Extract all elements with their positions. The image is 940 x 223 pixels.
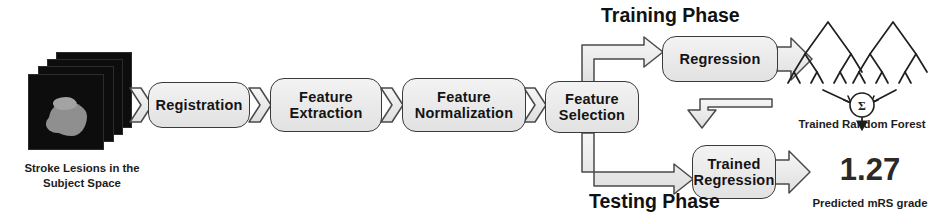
box-regression-line1: Regression <box>680 51 761 67</box>
box-feature-selection[interactable]: Feature Selection <box>545 81 639 133</box>
arrow-feature-extraction-to-feature-normalization <box>381 88 403 122</box>
arrow-model-feedback <box>688 99 772 128</box>
box-registration[interactable]: Registration <box>148 82 250 128</box>
box-feature-extraction-line1: Feature <box>290 89 363 105</box>
predicted-mrs-value: 1.27 <box>820 152 920 188</box>
training-phase-label: Training Phase <box>601 4 740 27</box>
arrow-feature-selection-to-regression <box>582 37 663 86</box>
arrow-registration-to-feature-extraction <box>249 88 271 122</box>
arrow-feature-normalization-to-feature-selection <box>524 88 546 122</box>
random-forest-caption: Trained Random Forest <box>772 117 940 132</box>
pipeline-diagram: Stroke Lesions in the Subject Space <box>0 0 940 223</box>
box-feature-normalization[interactable]: Feature Normalization <box>402 78 526 132</box>
aggregator-symbol: Σ <box>858 99 866 113</box>
random-forest-icon: Σ <box>788 22 927 130</box>
predicted-mrs-caption: Predicted mRS grade <box>790 196 940 211</box>
arrow-trained-regression-to-prediction <box>775 151 810 193</box>
testing-phase-label: Testing Phase <box>589 190 720 213</box>
box-feature-normalization-line2: Normalization <box>415 105 513 121</box>
box-trained-regression-line1: Trained <box>694 156 775 172</box>
box-feature-extraction-line2: Extraction <box>290 105 363 121</box>
arrow-feature-selection-to-trained-regression <box>582 133 693 194</box>
box-regression[interactable]: Regression <box>662 36 778 82</box>
box-registration-line1: Registration <box>156 97 243 113</box>
box-trained-regression-line2: Regression <box>694 172 775 188</box>
box-feature-selection-line1: Feature <box>559 91 625 107</box>
box-feature-extraction[interactable]: Feature Extraction <box>270 78 382 132</box>
box-feature-normalization-line1: Feature <box>415 89 513 105</box>
box-feature-selection-line2: Selection <box>559 107 625 123</box>
